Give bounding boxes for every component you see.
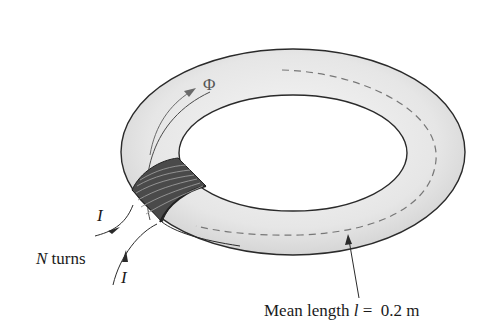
current-out-lead xyxy=(113,224,157,285)
mean-length-label: Mean length l = 0.2 m xyxy=(264,302,420,319)
toroid-core xyxy=(121,49,465,255)
toroid-drawing xyxy=(0,0,496,335)
current-out-label: I xyxy=(121,269,127,286)
turns-label: N turns xyxy=(36,250,86,267)
current-in-label: I xyxy=(97,207,103,224)
toroid-diagram: Φ I N turns I Mean length l = 0.2 m xyxy=(0,0,496,335)
turns-text: turns xyxy=(47,249,85,268)
turns-variable: N xyxy=(36,249,47,268)
mean-length-prefix: Mean length xyxy=(264,301,354,320)
mean-length-value: = 0.2 m xyxy=(358,301,419,320)
flux-label: Φ xyxy=(203,76,215,93)
